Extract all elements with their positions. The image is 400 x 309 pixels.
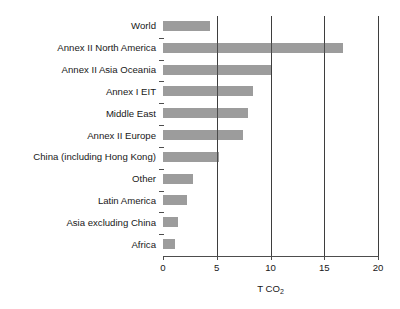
y-axis-tick bbox=[159, 234, 164, 235]
x-axis-tick bbox=[217, 256, 218, 260]
bar bbox=[163, 174, 193, 184]
gridline-overlay bbox=[217, 16, 218, 256]
gridline-overlay bbox=[378, 16, 379, 256]
x-axis-title-subscript: 2 bbox=[280, 288, 284, 295]
chart-title-remnant bbox=[120, 0, 260, 2]
y-axis-tick bbox=[159, 81, 164, 82]
x-axis-title: T CO2 bbox=[163, 283, 378, 294]
x-axis-tick-label: 5 bbox=[202, 262, 232, 273]
y-axis-tick bbox=[159, 125, 164, 126]
category-label: Annex II North America bbox=[0, 42, 156, 53]
category-label: Annex I EIT bbox=[0, 86, 156, 97]
x-axis-title-text: T CO bbox=[257, 283, 280, 294]
category-label: Asia excluding China bbox=[0, 217, 156, 228]
x-axis-tick bbox=[378, 256, 379, 260]
y-axis-tick bbox=[159, 38, 164, 39]
x-axis-tick-label: 10 bbox=[256, 262, 286, 273]
bar bbox=[163, 43, 343, 53]
category-label: Middle East bbox=[0, 108, 156, 119]
category-label: World bbox=[0, 20, 156, 31]
bar bbox=[163, 152, 219, 162]
bar bbox=[163, 86, 253, 96]
bar-chart: WorldAnnex II North AmericaAnnex II Asia… bbox=[0, 0, 400, 309]
x-axis-tick-label: 0 bbox=[148, 262, 178, 273]
bar bbox=[163, 217, 178, 227]
bar bbox=[163, 239, 175, 249]
bar bbox=[163, 130, 243, 140]
category-label: Annex II Europe bbox=[0, 130, 156, 141]
x-axis-tick-label: 20 bbox=[363, 262, 393, 273]
category-label: Other bbox=[0, 173, 156, 184]
y-axis-tick bbox=[159, 60, 164, 61]
x-axis-tick bbox=[271, 256, 272, 260]
category-label: China (including Hong Kong) bbox=[0, 151, 156, 162]
y-axis-tick bbox=[159, 103, 164, 104]
category-label: Annex II Asia Oceania bbox=[0, 64, 156, 75]
gridline-overlay bbox=[271, 16, 272, 256]
x-axis-tick bbox=[324, 256, 325, 260]
bar bbox=[163, 21, 210, 31]
y-axis-tick bbox=[159, 212, 164, 213]
bar bbox=[163, 108, 248, 118]
x-axis-tick-label: 15 bbox=[309, 262, 339, 273]
plot-area bbox=[163, 16, 378, 256]
y-axis-tick bbox=[159, 191, 164, 192]
category-axis-labels: WorldAnnex II North AmericaAnnex II Asia… bbox=[0, 16, 160, 256]
x-axis-tick bbox=[163, 256, 164, 260]
gridline-overlay bbox=[324, 16, 325, 256]
y-axis-tick bbox=[159, 147, 164, 148]
bar bbox=[163, 195, 187, 205]
category-label: Latin America bbox=[0, 195, 156, 206]
category-label: Africa bbox=[0, 239, 156, 250]
y-axis-tick bbox=[159, 169, 164, 170]
